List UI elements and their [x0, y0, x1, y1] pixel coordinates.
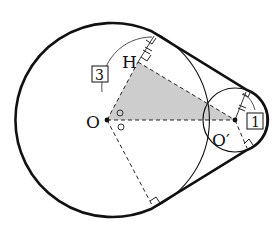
point-O-prime — [233, 118, 238, 123]
label-O: O — [86, 112, 100, 132]
point-O — [105, 118, 110, 123]
label-O-prime: O′ — [212, 130, 230, 150]
radius-label-small: 1 — [251, 114, 260, 130]
radius-label-big: 3 — [95, 67, 104, 83]
geometry-diagram: O O′ H 3 1 — [0, 0, 277, 231]
segment-H-tangent — [138, 36, 154, 62]
label-H: H — [122, 52, 137, 72]
angle-mark-lower — [118, 124, 124, 130]
